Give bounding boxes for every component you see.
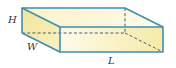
length-label: L <box>108 56 115 66</box>
width-label: W <box>27 42 37 52</box>
height-label: H <box>8 15 17 25</box>
box-diagram: H W L <box>0 0 176 68</box>
front-face <box>60 27 163 52</box>
prism-drawing <box>0 0 176 68</box>
